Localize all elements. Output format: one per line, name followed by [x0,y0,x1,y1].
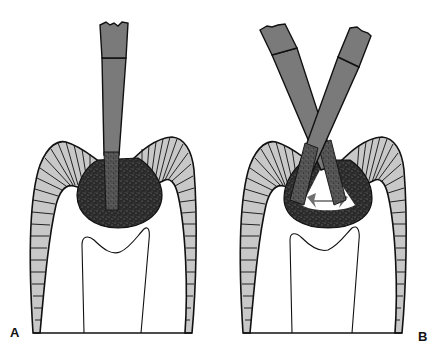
panel-a [30,22,196,333]
panel-b [240,24,406,333]
bur-a-cutting-tip [104,152,119,210]
figure-canvas [0,0,439,349]
pulp-chamber [82,228,149,333]
panel-label-b: B [418,329,427,344]
pulp-chamber [290,227,359,333]
caries-lesion [77,158,162,228]
panel-label-a: A [10,325,19,340]
